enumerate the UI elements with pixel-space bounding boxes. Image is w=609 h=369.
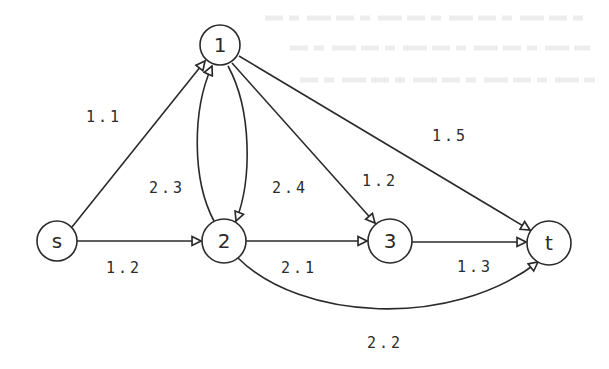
node-1: 1 xyxy=(200,25,240,65)
node-label: s xyxy=(52,229,62,253)
edge-labels: 1.1 1.2 2.3 2.4 1.2 1.5 2.1 1.3 2.2 xyxy=(86,108,493,352)
edge-s-1 xyxy=(72,61,205,227)
edge-label-1-2: 2.4 xyxy=(272,179,308,197)
edge-1-3 xyxy=(232,63,375,223)
edge-label-s-2: 1.2 xyxy=(106,259,142,277)
node-3: 3 xyxy=(368,219,412,263)
edge-2-1 xyxy=(197,66,214,221)
node-label: 3 xyxy=(384,229,397,253)
node-label: 1 xyxy=(214,33,227,57)
node-label: 2 xyxy=(218,229,231,253)
edge-label-2-1: 2.3 xyxy=(149,179,185,197)
edge-label-1-3: 1.2 xyxy=(362,172,398,190)
node-2: 2 xyxy=(202,219,246,263)
edge-label-1-t: 1.5 xyxy=(432,127,468,145)
edge-label-s-1: 1.1 xyxy=(86,108,122,126)
edge-1-2 xyxy=(228,66,247,221)
edge-label-3-t: 1.3 xyxy=(457,258,493,276)
flow-network-diagram: s 1 2 3 t 1.1 1.2 2.3 2.4 1.2 1.5 2.1 1.… xyxy=(0,0,609,369)
edge-label-2-t: 2.2 xyxy=(367,334,403,352)
node-s: s xyxy=(37,221,77,261)
node-t: t xyxy=(527,221,571,265)
node-label: t xyxy=(545,231,553,255)
edge-label-2-3: 2.1 xyxy=(281,259,317,277)
paper-bleed-through xyxy=(265,18,595,80)
